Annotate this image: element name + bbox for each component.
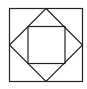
outer-square — [10, 9, 83, 82]
inner-square — [28, 27, 65, 64]
diamond — [10, 9, 83, 82]
nested-squares-diagram — [0, 0, 87, 89]
